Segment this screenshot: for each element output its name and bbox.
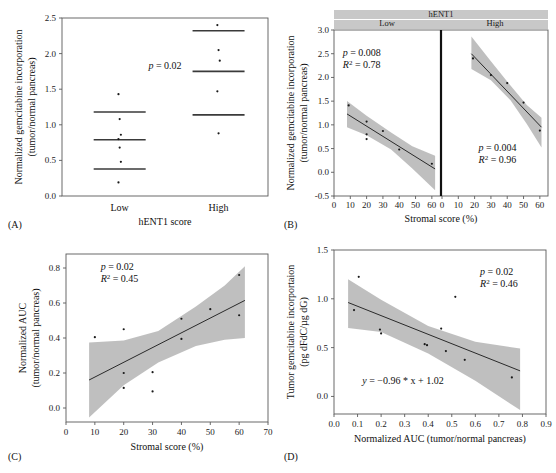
svg-text:0.3: 0.3 xyxy=(399,419,411,429)
svg-text:0.5: 0.5 xyxy=(318,144,330,154)
svg-text:(pg dFdC/µg dG): (pg dFdC/µg dG) xyxy=(298,297,310,367)
svg-text:p = 0.008: p = 0.008 xyxy=(342,47,381,58)
svg-text:Normalized gemcitabine incorpo: Normalized gemcitabine incorporation xyxy=(13,30,24,185)
svg-text:0.2: 0.2 xyxy=(49,368,60,378)
svg-text:0.0: 0.0 xyxy=(49,403,61,413)
svg-text:0.2: 0.2 xyxy=(375,419,386,429)
svg-text:(tumor/normal pancreas): (tumor/normal pancreas) xyxy=(298,63,310,162)
svg-text:60: 60 xyxy=(427,200,437,210)
svg-text:1.5: 1.5 xyxy=(45,84,57,94)
svg-text:(A): (A) xyxy=(8,219,22,231)
svg-text:0: 0 xyxy=(64,427,69,437)
svg-text:0.8: 0.8 xyxy=(49,263,61,273)
svg-text:30: 30 xyxy=(378,200,388,210)
svg-text:0: 0 xyxy=(440,200,445,210)
svg-text:R2 = 0.78: R2 = 0.78 xyxy=(342,59,381,70)
panel-b-svg: hENT1-0.50.00.51.01.52.02.53.0Low0102030… xyxy=(278,0,556,236)
svg-text:(B): (B) xyxy=(284,219,297,231)
svg-text:50: 50 xyxy=(519,200,529,210)
svg-text:R2 = 0.46: R2 = 0.46 xyxy=(479,278,518,289)
svg-text:Normalized AUC: Normalized AUC xyxy=(17,303,28,374)
svg-text:60: 60 xyxy=(535,200,545,210)
svg-text:0.5: 0.5 xyxy=(446,419,458,429)
svg-text:1.0: 1.0 xyxy=(317,294,329,304)
svg-text:2.0: 2.0 xyxy=(45,49,57,59)
svg-text:0.7: 0.7 xyxy=(493,419,505,429)
svg-text:(C): (C) xyxy=(8,451,21,463)
svg-text:p = 0.02: p = 0.02 xyxy=(479,266,513,277)
svg-text:50: 50 xyxy=(411,200,421,210)
panel-c: 0.00.20.40.60.8010203040506070p = 0.02R2… xyxy=(0,236,278,473)
svg-text:50: 50 xyxy=(206,427,216,437)
svg-text:70: 70 xyxy=(264,427,274,437)
svg-text:p = 0.02: p = 0.02 xyxy=(100,261,134,272)
svg-text:Stromal score (%): Stromal score (%) xyxy=(131,441,204,453)
figure-container: 0.00.51.01.52.02.5LowHighp = 0.02hENT1 s… xyxy=(0,0,556,473)
svg-text:hENT1 score: hENT1 score xyxy=(138,216,192,227)
svg-text:2.0: 2.0 xyxy=(318,72,330,82)
svg-text:10: 10 xyxy=(346,200,356,210)
svg-text:10: 10 xyxy=(454,200,464,210)
svg-text:1.5: 1.5 xyxy=(318,96,330,106)
svg-text:(tumor/normal pancreas): (tumor/normal pancreas) xyxy=(30,288,42,387)
svg-text:y = −0.96 * x + 1.02: y = −0.96 * x + 1.02 xyxy=(361,375,443,386)
svg-text:60: 60 xyxy=(235,427,245,437)
panel-a-svg: 0.00.51.01.52.02.5LowHighp = 0.02hENT1 s… xyxy=(0,0,278,236)
svg-text:R2 = 0.96: R2 = 0.96 xyxy=(478,154,517,165)
svg-text:Normalized AUC (tumor/normal p: Normalized AUC (tumor/normal pancreas) xyxy=(354,433,526,445)
svg-text:-0.5: -0.5 xyxy=(315,191,330,201)
svg-text:0.9: 0.9 xyxy=(540,419,552,429)
svg-text:20: 20 xyxy=(119,427,129,437)
svg-text:High: High xyxy=(209,202,229,213)
svg-text:0.8: 0.8 xyxy=(517,419,529,429)
svg-text:Normalized gemcitabine incorpo: Normalized gemcitabine incorporation xyxy=(285,36,296,191)
svg-text:1.0: 1.0 xyxy=(45,120,57,130)
svg-text:20: 20 xyxy=(362,200,372,210)
svg-text:2.5: 2.5 xyxy=(45,13,57,23)
svg-text:p = 0.004: p = 0.004 xyxy=(477,142,516,153)
panel-d-svg: 0.00.51.01.50.00.10.20.30.40.50.60.70.80… xyxy=(278,236,556,473)
svg-text:0: 0 xyxy=(332,200,337,210)
svg-text:0.0: 0.0 xyxy=(45,191,57,201)
panel-b: hENT1-0.50.00.51.01.52.02.53.0Low0102030… xyxy=(278,0,556,236)
svg-text:40: 40 xyxy=(177,427,187,437)
svg-text:0.1: 0.1 xyxy=(352,419,363,429)
svg-text:0.0: 0.0 xyxy=(328,419,340,429)
panel-d: 0.00.51.01.50.00.10.20.30.40.50.60.70.80… xyxy=(278,236,556,473)
svg-text:1.5: 1.5 xyxy=(317,245,329,255)
svg-text:30: 30 xyxy=(148,427,158,437)
svg-text:0.4: 0.4 xyxy=(423,419,435,429)
svg-text:Low: Low xyxy=(111,202,130,213)
svg-text:40: 40 xyxy=(395,200,405,210)
svg-text:40: 40 xyxy=(503,200,513,210)
svg-text:0.5: 0.5 xyxy=(45,155,57,165)
svg-text:0.6: 0.6 xyxy=(470,419,482,429)
svg-text:p = 0.02: p = 0.02 xyxy=(147,60,181,71)
svg-text:0.5: 0.5 xyxy=(317,343,329,353)
svg-text:1.0: 1.0 xyxy=(318,120,330,130)
svg-text:High: High xyxy=(487,18,505,28)
svg-text:0.0: 0.0 xyxy=(318,167,330,177)
svg-text:(tumor/normal pancreas): (tumor/normal pancreas) xyxy=(26,57,38,156)
svg-text:20: 20 xyxy=(470,200,480,210)
svg-text:Tumor gemcitabine incorportaio: Tumor gemcitabine incorportaion xyxy=(285,265,296,400)
svg-text:0.6: 0.6 xyxy=(49,298,61,308)
svg-text:2.5: 2.5 xyxy=(318,49,330,59)
svg-text:Stromal score (%): Stromal score (%) xyxy=(405,213,478,225)
svg-text:0.0: 0.0 xyxy=(317,391,329,401)
panel-c-svg: 0.00.20.40.60.8010203040506070p = 0.02R2… xyxy=(0,236,278,473)
svg-text:R2 = 0.45: R2 = 0.45 xyxy=(100,273,139,284)
svg-text:10: 10 xyxy=(90,427,100,437)
svg-text:30: 30 xyxy=(486,200,496,210)
svg-text:hENT1: hENT1 xyxy=(428,9,453,19)
svg-text:(D): (D) xyxy=(284,451,298,463)
panel-a: 0.00.51.01.52.02.5LowHighp = 0.02hENT1 s… xyxy=(0,0,278,236)
svg-text:0.4: 0.4 xyxy=(49,333,61,343)
svg-text:3.0: 3.0 xyxy=(318,25,330,35)
svg-text:Low: Low xyxy=(379,18,395,28)
